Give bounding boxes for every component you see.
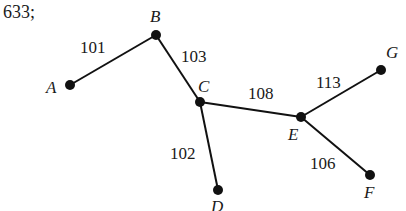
edge-weight-label: 101 [80, 38, 106, 57]
node-d [213, 185, 223, 195]
node-label-d: D [210, 197, 224, 211]
node-label-a: A [45, 78, 57, 97]
node-label-f: F [363, 183, 375, 202]
nodes [65, 30, 386, 195]
weighted-tree-diagram: 101103102108113106ABCDEFG [0, 0, 406, 211]
node-e [296, 112, 306, 122]
node-label-g: G [386, 43, 398, 62]
node-a [65, 80, 75, 90]
node-f [365, 170, 375, 180]
edge-e-g [301, 70, 381, 117]
node-b [151, 30, 161, 40]
edge-weight-label: 108 [248, 84, 274, 103]
edge-weight-label: 102 [170, 144, 196, 163]
node-c [195, 97, 205, 107]
labels: 101103102108113106ABCDEFG [45, 7, 398, 211]
edge-c-e [200, 102, 301, 117]
node-label-c: C [198, 77, 210, 96]
node-g [376, 65, 386, 75]
edge-weight-label: 103 [181, 47, 207, 66]
node-label-b: B [150, 7, 161, 26]
edge-c-d [200, 102, 218, 190]
node-label-e: E [287, 125, 299, 144]
edge-weight-label: 113 [316, 73, 341, 92]
edge-b-c [156, 35, 200, 102]
edge-weight-label: 106 [310, 154, 336, 173]
